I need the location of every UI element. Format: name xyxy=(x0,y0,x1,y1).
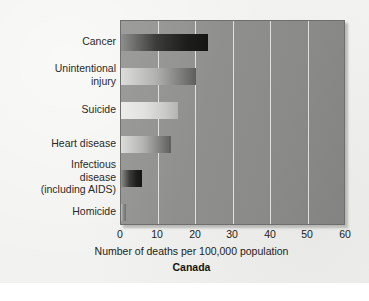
x-tick-30: 30 xyxy=(226,228,238,240)
gridline-50 xyxy=(308,21,309,224)
gridline-10 xyxy=(158,21,159,224)
bar-homicide[interactable] xyxy=(121,204,126,221)
plot-area xyxy=(120,20,345,225)
x-tick-40: 40 xyxy=(264,228,276,240)
x-tick-10: 10 xyxy=(151,228,163,240)
x-tick-0: 0 xyxy=(117,228,123,240)
x-tick-60: 60 xyxy=(339,228,351,240)
bar-infectious-disease[interactable] xyxy=(121,170,142,187)
category-label-unintentional-injury: Unintentional injury xyxy=(4,62,116,87)
category-label-homicide: Homicide xyxy=(4,205,116,218)
gridline-20 xyxy=(195,21,196,224)
gridline-30 xyxy=(233,21,234,224)
gridline-40 xyxy=(270,21,271,224)
bar-suicide[interactable] xyxy=(121,102,178,119)
bar-heart-disease[interactable] xyxy=(121,136,171,153)
bar-unintentional-injury[interactable] xyxy=(121,68,196,85)
x-tick-20: 20 xyxy=(189,228,201,240)
category-label-infectious-disease: Infectious disease (including AIDS) xyxy=(4,158,116,196)
category-label-heart-disease: Heart disease xyxy=(4,137,116,150)
category-label-suicide: Suicide xyxy=(4,103,116,116)
page-bottom-margin xyxy=(0,283,369,301)
chart-caption-country: Canada xyxy=(0,261,369,273)
x-axis-ticks: 0 10 20 30 40 50 60 xyxy=(0,228,369,242)
chart-screenshot: Cancer Unintentional injury Suicide Hear… xyxy=(0,0,369,301)
bar-chart: Cancer Unintentional injury Suicide Hear… xyxy=(0,0,369,283)
bar-cancer[interactable] xyxy=(121,34,208,51)
x-axis-title: Number of deaths per 100,000 population xyxy=(0,245,369,257)
x-tick-50: 50 xyxy=(301,228,313,240)
category-label-cancer: Cancer xyxy=(4,35,116,48)
